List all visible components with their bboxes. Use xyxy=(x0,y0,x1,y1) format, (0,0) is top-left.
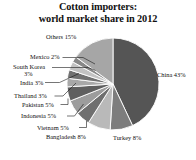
slice-label-others: Others 15% xyxy=(46,33,76,40)
slice-label-thailand: Thailand 3% xyxy=(14,92,47,99)
slice-label-india: India 3% xyxy=(20,79,43,86)
pie-chart-figure: Cotton importers: world market share in … xyxy=(0,0,196,160)
pie-slices xyxy=(67,38,159,130)
slice-label-pakistan: Pakistan 5% xyxy=(22,101,54,108)
slice-label-vietnam: Vietnam 5% xyxy=(37,124,69,131)
slice-label-mexico: Mexico 2% xyxy=(30,53,60,60)
leader-line-pakistan xyxy=(61,99,69,105)
slice-label-indonesia: Indonesia 5% xyxy=(21,112,56,119)
leader-line-vietnam xyxy=(79,121,87,128)
slice-label-turkey: Turkey 8% xyxy=(113,134,141,141)
slice-label-south-korea-percent: 3% xyxy=(24,70,33,77)
slice-label-china: China 43% xyxy=(157,71,186,78)
slice-label-bangladesh: Bangladesh 8% xyxy=(46,133,86,140)
